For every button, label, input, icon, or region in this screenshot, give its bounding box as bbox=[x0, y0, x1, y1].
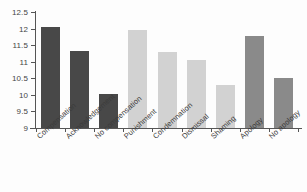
bar bbox=[245, 36, 264, 128]
x-axis-tick-mark bbox=[65, 129, 66, 132]
y-axis-tick-mark bbox=[31, 95, 35, 96]
y-axis-tick-mark bbox=[31, 78, 35, 79]
y-axis-tick-label: 12 bbox=[19, 24, 28, 33]
y-axis-tick-mark bbox=[31, 128, 35, 129]
x-axis-tick-mark bbox=[152, 129, 153, 132]
x-axis-tick-mark bbox=[123, 129, 124, 132]
y-axis-tick-label: 9.5 bbox=[17, 107, 28, 116]
x-axis-category-labels: CompensationAcknowledgementNo compensati… bbox=[0, 130, 307, 192]
y-axis-tick-mark bbox=[31, 29, 35, 30]
bar-chart-figure: 12.51211.51110.5109.59 CompensationAckno… bbox=[0, 0, 307, 192]
y-axis-tick-labels: 12.51211.51110.5109.59 bbox=[0, 12, 33, 128]
x-axis-tick-mark bbox=[298, 129, 299, 132]
x-axis-tick-mark bbox=[182, 129, 183, 132]
plot-area bbox=[36, 12, 298, 128]
y-axis-tick-label: 10 bbox=[19, 90, 28, 99]
x-axis-tick-mark bbox=[94, 129, 95, 132]
y-axis-tick-label: 11 bbox=[19, 57, 28, 66]
y-axis-tick-mark bbox=[31, 62, 35, 63]
x-axis-tick-mark bbox=[269, 129, 270, 132]
y-axis-tick-mark bbox=[31, 45, 35, 46]
x-axis-tick-mark bbox=[211, 129, 212, 132]
y-axis-tick-mark bbox=[31, 111, 35, 112]
y-axis-tick-mark bbox=[31, 12, 35, 13]
y-axis-tick-label: 10.5 bbox=[12, 74, 28, 83]
x-axis-tick-mark bbox=[36, 129, 37, 132]
x-axis-tick-mark bbox=[240, 129, 241, 132]
y-axis-tick-label: 11.5 bbox=[13, 41, 28, 50]
y-axis-tick-label: 12.5 bbox=[12, 8, 28, 17]
